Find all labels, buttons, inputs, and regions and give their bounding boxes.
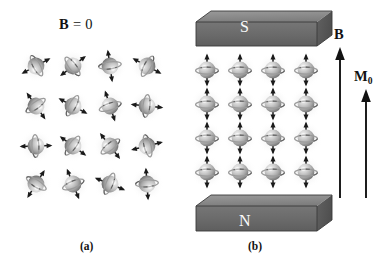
diagram-canvas bbox=[0, 0, 381, 275]
spin-dipole bbox=[13, 161, 58, 206]
spin-dipole bbox=[127, 126, 167, 166]
spin-dipole bbox=[14, 44, 59, 89]
field-vector-label: B bbox=[334, 26, 344, 43]
spin-dipole bbox=[191, 88, 224, 121]
spin-dipole bbox=[52, 163, 95, 206]
field-equals-zero: = 0 bbox=[69, 16, 93, 32]
spin-dipole bbox=[125, 44, 170, 89]
spin-dipole bbox=[224, 156, 257, 189]
spin-dipole bbox=[50, 43, 96, 89]
spin-dipole bbox=[257, 88, 290, 121]
panel-b-caption: (b) bbox=[248, 240, 262, 252]
panel-a-caption: (a) bbox=[80, 240, 93, 252]
south-pole-label: S bbox=[240, 18, 249, 36]
spin-dipole bbox=[91, 47, 128, 84]
spin-dipole bbox=[257, 122, 290, 155]
field-vector-arrow bbox=[335, 47, 345, 198]
panel-b-spin-grid bbox=[191, 54, 323, 189]
spin-dipole bbox=[224, 88, 257, 121]
spin-dipole bbox=[19, 129, 53, 163]
figure-magnetic-dipole-alignment: B = 0 B M0 S N (a) (b) bbox=[0, 0, 381, 275]
field-symbol-B: B bbox=[59, 16, 69, 32]
spin-dipole bbox=[290, 122, 323, 155]
north-pole-magnet-block bbox=[196, 195, 332, 231]
spin-dipole bbox=[51, 84, 96, 129]
south-pole-magnet-block bbox=[196, 11, 332, 46]
north-pole-label: N bbox=[239, 212, 251, 230]
spin-dipole bbox=[290, 54, 323, 87]
spin-dipole bbox=[129, 88, 165, 124]
spin-dipole bbox=[224, 122, 257, 155]
magnetization-vector-label: M0 bbox=[354, 68, 372, 85]
spin-dipole bbox=[13, 83, 59, 129]
panel-a-spin-grid bbox=[13, 43, 169, 207]
spin-dipole bbox=[191, 156, 224, 189]
spin-dipole bbox=[87, 123, 133, 169]
spin-dipole bbox=[224, 54, 257, 87]
spin-dipole bbox=[50, 123, 96, 169]
field-zero-label: B = 0 bbox=[59, 16, 93, 33]
spin-dipole bbox=[257, 156, 290, 189]
spin-dipole bbox=[191, 54, 224, 87]
spin-dipole bbox=[257, 54, 290, 87]
spin-dipole bbox=[191, 122, 224, 155]
spin-dipole bbox=[290, 88, 323, 121]
spin-dipole bbox=[89, 85, 131, 127]
magnetization-subscript: 0 bbox=[368, 76, 373, 86]
spin-dipole bbox=[129, 166, 164, 201]
magnetization-vector-arrow bbox=[361, 89, 371, 198]
spin-dipole bbox=[290, 156, 323, 189]
spin-dipole bbox=[89, 163, 132, 206]
magnetization-symbol: M bbox=[354, 68, 368, 84]
